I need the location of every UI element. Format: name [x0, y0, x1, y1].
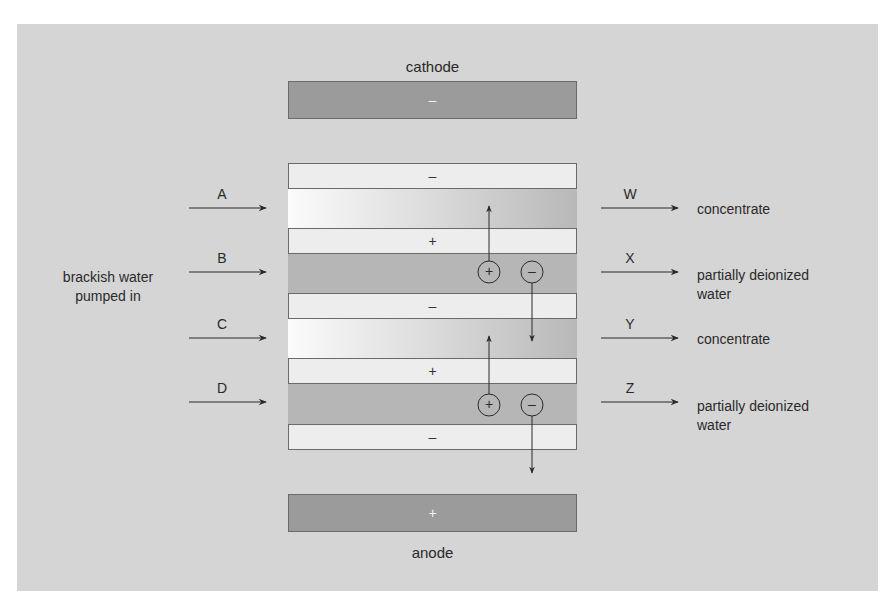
anion-1-symbol: –: [522, 263, 542, 279]
input-arrows: [189, 208, 266, 402]
output-z-label-line1: partially deionized: [697, 397, 809, 416]
source-label: brackish water pumped in: [40, 268, 176, 306]
source-label-line2: pumped in: [40, 287, 176, 306]
output-z-label: partially deionized water: [697, 397, 809, 435]
output-y-label-line1: concentrate: [697, 330, 770, 349]
anion-2-symbol: –: [522, 396, 542, 412]
output-x-label: partially deionized water: [697, 266, 809, 304]
output-w-label-line1: concentrate: [697, 200, 770, 219]
source-label-line1: brackish water: [40, 268, 176, 287]
output-y-label: concentrate: [697, 330, 770, 349]
stream-a-label: A: [212, 186, 232, 202]
cation-2-symbol: +: [479, 396, 499, 412]
output-arrows: [601, 208, 678, 402]
output-x-letter: X: [620, 250, 640, 266]
output-z-letter: Z: [620, 380, 640, 396]
stream-c-label: C: [212, 316, 232, 332]
output-y-letter: Y: [620, 316, 640, 332]
output-w-label: concentrate: [697, 200, 770, 219]
output-x-label-line1: partially deionized: [697, 266, 809, 285]
output-z-label-line2: water: [697, 416, 809, 435]
cation-1-symbol: +: [479, 263, 499, 279]
stream-d-label: D: [212, 380, 232, 396]
output-x-label-line2: water: [697, 285, 809, 304]
stream-b-label: B: [212, 250, 232, 266]
output-w-letter: W: [620, 186, 640, 202]
